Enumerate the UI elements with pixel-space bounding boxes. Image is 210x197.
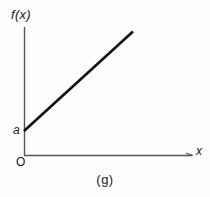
figure-caption: (g) (0, 172, 210, 187)
y-intercept-label: a (13, 124, 20, 136)
origin-label: O (16, 156, 25, 168)
figure-panel: f(x) x a O (g) (0, 0, 210, 197)
y-axis-label: f(x) (11, 8, 31, 21)
x-axis-label: x (196, 145, 202, 157)
plot-area (0, 0, 210, 197)
function-line (24, 32, 133, 132)
